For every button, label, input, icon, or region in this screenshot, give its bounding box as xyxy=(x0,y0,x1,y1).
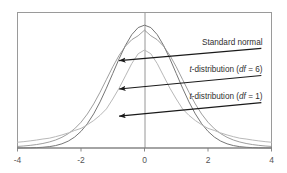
label-t-df-1: t-distribution (df = 1) xyxy=(189,92,262,101)
x-tick-label: 2 xyxy=(206,155,211,165)
chart-figure: -4-2024 Standard normalt-distribution (d… xyxy=(0,0,287,173)
label-segment: = 1) xyxy=(246,92,263,101)
plot-frame xyxy=(18,13,272,149)
x-tick-label: 4 xyxy=(269,155,274,165)
label-segment: -distribution ( xyxy=(192,65,240,74)
label-segment: Standard normal xyxy=(202,38,263,47)
x-tick-label: -2 xyxy=(77,155,85,165)
distribution-plot: -4-2024 Standard normalt-distribution (d… xyxy=(0,0,287,173)
label-standard-normal: Standard normal xyxy=(202,38,263,47)
label-segment: -distribution ( xyxy=(192,92,240,101)
x-tick-label: -4 xyxy=(14,155,22,165)
label-t-df-6: t-distribution (df = 6) xyxy=(189,65,262,74)
x-tick-label: 0 xyxy=(142,155,147,165)
label-segment: = 6) xyxy=(246,65,263,74)
